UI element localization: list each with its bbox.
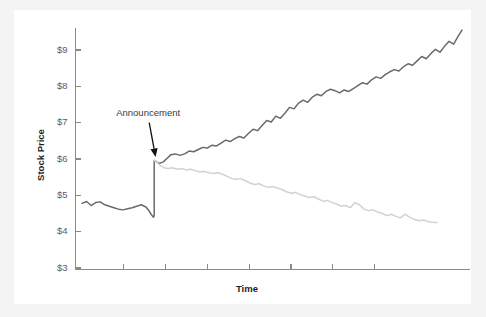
y-axis-title: Stock Price bbox=[35, 129, 46, 181]
y-tick-label: $6 bbox=[57, 153, 68, 164]
annotation-arrow-head bbox=[151, 148, 158, 157]
annotation-label: Announcement bbox=[116, 107, 180, 118]
y-tick-label: $3 bbox=[57, 262, 68, 273]
y-tick-label: $8 bbox=[57, 80, 68, 91]
annotation-arrow-line bbox=[149, 123, 154, 149]
stock-price-line-chart: $9$8$7$6$5$4$3 Announcement Stock Price … bbox=[0, 0, 486, 317]
figure-root: $9$8$7$6$5$4$3 Announcement Stock Price … bbox=[0, 0, 486, 317]
y-tick-label: $4 bbox=[57, 225, 68, 236]
y-tick-label: $9 bbox=[57, 44, 68, 55]
y-tick-label: $5 bbox=[57, 189, 68, 200]
annotation-group: Announcement bbox=[116, 107, 180, 157]
x-axis bbox=[76, 264, 471, 270]
series-group bbox=[82, 30, 462, 223]
y-axis: $9$8$7$6$5$4$3 bbox=[57, 28, 81, 273]
y-tick-label: $7 bbox=[57, 116, 68, 127]
x-axis-title: Time bbox=[236, 283, 258, 294]
series-counterfactual-downward bbox=[154, 160, 437, 222]
series-post-announcement-upward bbox=[82, 30, 462, 217]
